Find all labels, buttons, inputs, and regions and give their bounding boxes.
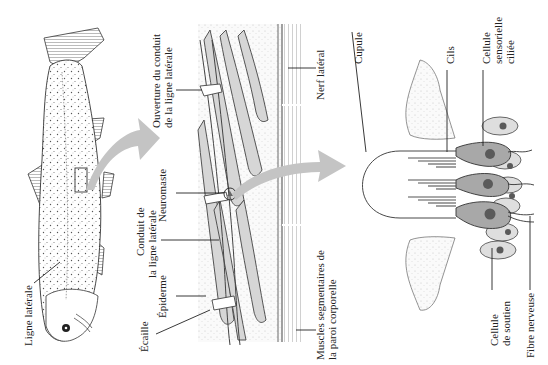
neuromast-detail-panel: Cupule Cils Cellule sensorielle ciliée C…	[352, 17, 536, 358]
nerve-fiber	[508, 150, 532, 152]
lateral-line-diagram: Ligne latérale	[0, 0, 548, 365]
label-scale: Écaille	[138, 321, 150, 352]
nucleus	[497, 247, 504, 254]
nucleus	[483, 179, 493, 189]
label-muscles-1: Muscles segmentaires de	[314, 250, 326, 360]
hair-cell	[456, 174, 509, 197]
label-canal-opening-2: de la ligne latérale	[162, 47, 174, 128]
label-canal-2: la ligne latérale	[146, 210, 158, 278]
fish-fin-lower-mid	[102, 172, 114, 198]
nucleus	[507, 163, 513, 169]
nucleus	[509, 193, 515, 199]
label-cilia: Cils	[444, 46, 456, 64]
label-canal-1: Conduit de	[134, 207, 146, 256]
label-muscles-2: la paroi corporelle	[326, 279, 338, 360]
segmental-muscles	[282, 24, 302, 342]
fish-head	[46, 289, 98, 341]
nucleus	[485, 149, 495, 159]
label-hair-cell-2: sensorielle	[492, 17, 504, 64]
epidermis-tissue-upper	[406, 60, 455, 139]
label-canal-opening-1: Ouverture du conduit	[150, 34, 162, 128]
label-epidermis: Épiderme	[156, 275, 168, 318]
nucleus	[485, 209, 496, 220]
hair-cell	[456, 202, 511, 229]
nucleus	[505, 229, 511, 235]
label-hair-cell-3: ciliée	[504, 40, 516, 64]
fish-eye-highlight	[65, 327, 68, 330]
fish-panel: Ligne latérale	[22, 28, 114, 346]
label-hair-cell-1: Cellule	[480, 32, 492, 64]
label-lateral-line: Ligne latérale	[22, 285, 34, 346]
label-lateral-nerve: Nerf latéral	[314, 50, 326, 100]
nucleus	[500, 123, 507, 130]
label-nerve-fiber: Fibre nerveuse	[524, 293, 536, 358]
epidermis-tissue-lower	[406, 237, 455, 311]
label-support-cell-2: de soutien	[500, 301, 512, 346]
label-support-cell-1: Cellule	[488, 314, 500, 346]
label-cupula: Cupule	[352, 32, 364, 64]
